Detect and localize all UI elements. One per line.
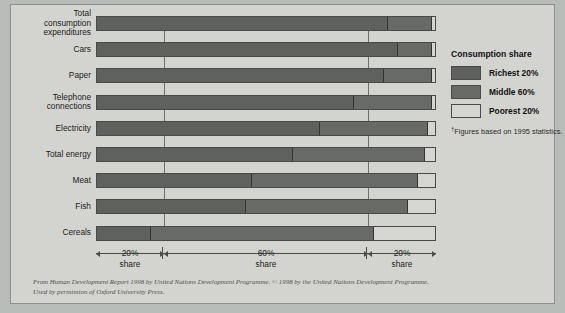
bar-segment-poorest [408,200,435,213]
bar-row: Cars [23,37,443,63]
bar-segment-richest [97,96,354,109]
axis-share-label: share [368,259,436,269]
bar-segment-middle [354,96,432,109]
gridline [368,214,369,225]
bar-segment-richest [97,227,151,240]
bar-category-label: Electricity [23,124,91,133]
bar-row: Paper [23,63,443,89]
axis-tick [366,247,367,259]
bar-segment-middle [151,227,374,240]
gridline [164,188,165,199]
bar-segment-poorest [432,17,435,30]
axis-segment: 20%share [96,249,164,271]
legend-label: Middle 60% [489,87,535,97]
bar-category-label: Telephone connections [23,93,91,112]
bar-category-label: Meat [23,176,91,185]
legend: Consumption share Richest 20%Middle 60%P… [451,49,565,136]
footnote-text: Figures based on 1995 statistics. [454,127,562,136]
gridline [164,214,165,225]
gridline [368,83,369,94]
bar-segment-middle [388,17,432,30]
axis-annotation: 20%share60%share20%share [96,249,436,273]
source-note: From Human Development Report 1998 by Un… [33,277,538,296]
gridline [164,136,165,147]
bar-row: Electricity [23,116,443,142]
bar-row: Cereals [23,221,443,247]
gridline [164,162,165,173]
bar-category-label: Total energy [23,150,91,159]
gridline [368,57,369,68]
bar-row: Telephone connections [23,90,443,116]
bar-segment-richest [97,43,398,56]
axis-percent-label: 60% [164,248,368,258]
gridline [164,57,165,68]
bar-track [96,68,436,83]
legend-swatch-middle [451,85,481,99]
bar-segment-poorest [374,227,435,240]
bar-track [96,173,436,188]
axis-segment: 20%share [368,249,436,271]
legend-swatch-poorest [451,104,481,118]
axis-percent-label: 20% [96,248,164,258]
gridline [164,83,165,94]
legend-label: Richest 20% [489,68,538,78]
gridline [164,110,165,121]
legend-item: Poorest 20% [451,104,565,118]
bar-segment-poorest [428,122,435,135]
bar-segment-richest [97,174,252,187]
bar-segment-middle [398,43,432,56]
axis-share-label: share [96,259,164,269]
legend-label: Poorest 20% [489,106,539,116]
bar-segment-richest [97,200,246,213]
bar-segment-middle [384,69,431,82]
bar-track [96,42,436,57]
bar-segment-richest [97,17,388,30]
axis-tick [162,247,163,259]
bar-segment-middle [252,174,418,187]
bar-row: Total consumption expenditures [23,11,443,37]
axis-label-wrap: 20% [96,248,164,258]
legend-footnote: †Figures based on 1995 statistics. [451,125,565,136]
bar-segment-poorest [418,174,435,187]
bar-track [96,147,436,162]
legend-items: Richest 20%Middle 60%Poorest 20% [451,66,565,118]
gridline [368,110,369,121]
chart-area: Total consumption expendituresCarsPaperT… [23,7,443,265]
bar-category-label: Fish [23,202,91,211]
bar-segment-middle [320,122,428,135]
axis-label-wrap: 20% [368,248,436,258]
axis-label-wrap: 60% [164,248,368,258]
bar-segment-richest [97,122,320,135]
axis-share-label: share [164,259,368,269]
gridline [368,162,369,173]
bar-category-label: Cereals [23,228,91,237]
bar-track [96,16,436,31]
bar-track [96,226,436,241]
bar-row: Fish [23,194,443,220]
stacked-bar-plot: Total consumption expendituresCarsPaperT… [23,7,443,247]
bar-category-label: Paper [23,71,91,80]
bar-segment-middle [246,200,408,213]
bar-row: Meat [23,168,443,194]
bar-track [96,199,436,214]
bar-track [96,95,436,110]
source-line-1: From Human Development Report 1998 by Un… [33,277,538,287]
bar-segment-poorest [432,43,435,56]
bar-row: Total energy [23,142,443,168]
gridline [164,31,165,42]
source-line-2: Used by permission of Oxford University … [33,287,538,297]
bar-segment-richest [97,148,293,161]
figure-frame: Total consumption expendituresCarsPaperT… [10,4,555,304]
bar-segment-poorest [432,96,435,109]
legend-item: Richest 20% [451,66,565,80]
axis-percent-label: 20% [368,248,436,258]
bar-track [96,121,436,136]
legend-item: Middle 60% [451,85,565,99]
legend-title: Consumption share [451,49,565,59]
gridline [368,188,369,199]
gridline [368,31,369,42]
axis-segment: 60%share [164,249,368,271]
bar-segment-middle [293,148,425,161]
bar-segment-richest [97,69,384,82]
bar-category-label: Total consumption expenditures [23,9,91,37]
